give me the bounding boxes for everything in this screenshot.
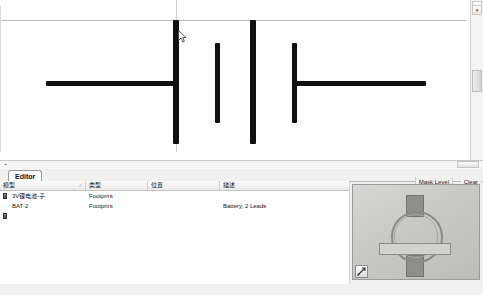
- battery-plate-short-1[interactable]: [215, 43, 220, 123]
- column-header-type-label: 类型: [89, 182, 101, 188]
- column-header-description-label: 描述: [223, 182, 235, 188]
- chevron-down-icon: ▾: [473, 6, 481, 14]
- cell-model: 3V锂电池-子: [9, 191, 86, 201]
- footprint-3d-preview[interactable]: [352, 184, 480, 280]
- sort-indicator-icon: ∕: [80, 181, 81, 190]
- preview-silkscreen-bar: [379, 243, 451, 255]
- column-header-model-label: 模型: [3, 182, 15, 188]
- battery-plate-long-2[interactable]: [250, 20, 256, 144]
- cell-description: Battery, 2 Leads: [220, 201, 349, 211]
- cell-model: BAT-2: [9, 201, 86, 211]
- table-row[interactable]: BAT-2 Footprint Battery, 2 Leads: [0, 201, 349, 211]
- canvas-vscrollbar[interactable]: ▴ ▾: [470, 0, 483, 160]
- model-icon: [3, 213, 7, 219]
- mouse-cursor-icon: [178, 30, 187, 43]
- model-icon: [3, 193, 7, 199]
- panel-toolbar-button[interactable]: [457, 161, 479, 168]
- table-header-row: 模型 ∕ 类型 位置 描述: [0, 181, 349, 191]
- tab-editor[interactable]: Editor: [8, 170, 42, 181]
- cell-type: Footprint: [86, 201, 148, 211]
- preview-tool-button[interactable]: [355, 265, 368, 278]
- battery-lead-right[interactable]: [294, 81, 426, 86]
- canvas-vscrollbar-thumb[interactable]: [472, 70, 482, 92]
- cell-location: [148, 201, 220, 211]
- sheet-boundary-left: [0, 6, 1, 152]
- column-header-location[interactable]: 位置: [148, 181, 220, 190]
- column-header-type[interactable]: 类型: [86, 181, 148, 190]
- schematic-canvas[interactable]: [0, 0, 466, 152]
- battery-lead-left[interactable]: [46, 81, 176, 86]
- sheet-boundary-top: [0, 20, 466, 21]
- cell-description: [220, 191, 349, 201]
- footprint-editor-window: ▴ ▾ ▪ Editor Mask Level Clear 模型 ∕: [0, 0, 483, 295]
- cell-location: [148, 191, 220, 201]
- cell-type: Footprint: [86, 191, 148, 201]
- model-table[interactable]: 模型 ∕ 类型 位置 描述 3V锂电池-子 Footprint: [0, 181, 350, 284]
- column-header-location-label: 位置: [151, 182, 163, 188]
- table-row[interactable]: 3V锂电池-子 Footprint: [0, 191, 349, 201]
- canvas-area: ▴ ▾: [0, 0, 483, 160]
- column-header-description[interactable]: 描述: [220, 181, 349, 190]
- panel-menu-icon[interactable]: ▪: [5, 162, 10, 167]
- column-header-model[interactable]: 模型 ∕: [0, 181, 86, 190]
- panel-topbar: ▪: [0, 161, 483, 169]
- scroll-down-button[interactable]: ▾: [472, 5, 482, 15]
